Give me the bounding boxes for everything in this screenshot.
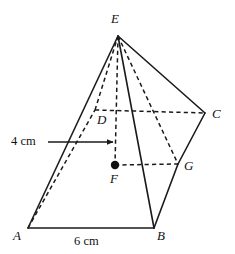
edge-hidden-E-F-height <box>115 36 118 165</box>
edge-hidden-D-E <box>95 36 118 110</box>
edge-hidden-D-C <box>95 110 205 113</box>
pyramid-figure: E A B C D G F 4 cm 6 cm <box>0 0 235 254</box>
edge-hidden-A-D <box>28 110 95 228</box>
edge-solid-A-E <box>28 36 118 228</box>
vertex-label-G: G <box>184 159 193 172</box>
vertex-label-E: E <box>111 12 119 25</box>
solid-edges-group <box>28 36 205 228</box>
edge-hidden-F-G <box>115 164 178 165</box>
vertex-label-F: F <box>110 172 118 185</box>
centre-point-dot <box>111 161 119 169</box>
dimension-label-height: 4 cm <box>11 135 36 148</box>
vertex-label-C: C <box>212 107 221 120</box>
edge-hidden-E-G <box>118 36 178 164</box>
edge-solid-B-E <box>118 36 154 228</box>
pyramid-figure-svg <box>0 0 235 254</box>
edge-solid-G-B <box>154 164 178 228</box>
edge-solid-C-G <box>178 113 205 164</box>
hidden-edges-group <box>28 36 205 228</box>
dimension-label-base: 6 cm <box>74 235 99 248</box>
vertex-label-A: A <box>13 229 21 242</box>
vertex-label-B: B <box>157 229 165 242</box>
vertex-label-D: D <box>97 113 106 126</box>
